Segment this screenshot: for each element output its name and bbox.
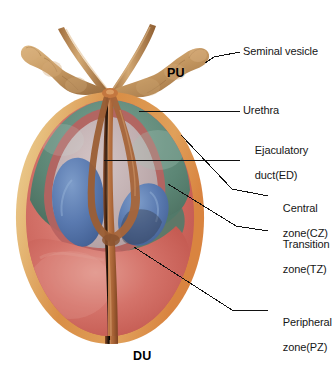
distal-urethra — [105, 336, 118, 374]
label-seminal-vesicle: Seminal vesicle — [243, 45, 318, 58]
label-pu: PU — [167, 66, 185, 80]
label-du: DU — [133, 349, 151, 363]
leader-seminal-vesicle — [205, 52, 240, 63]
label-urethra: Urethra — [243, 104, 279, 117]
label-transition-zone: Transition zone(TZ) — [271, 225, 330, 288]
seminal-vesicle-group — [21, 24, 209, 97]
label-peripheral-zone: Peripheral zone(PZ) — [271, 303, 332, 366]
label-ejaculatory-duct: Ejaculatory duct(ED) — [243, 131, 308, 194]
prostate-zonal-anatomy-figure: Seminal vesicle Urethra Ejaculatory duct… — [0, 0, 332, 379]
